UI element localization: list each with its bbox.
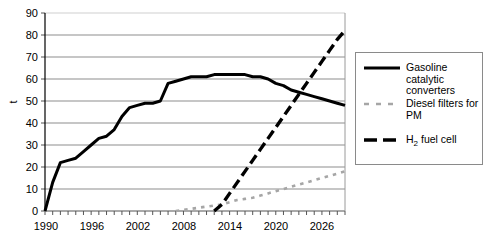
- dashed-line-sample: [362, 133, 402, 147]
- data-series-layer: [45, 31, 345, 211]
- legend-label-diesel-l1: Diesel filters for: [406, 97, 478, 109]
- legend-label-gasoline-l2: catalytic: [406, 73, 444, 85]
- legend-label-diesel-l2: PM: [406, 109, 422, 121]
- legend-item-diesel[interactable]: Diesel filters for PM: [362, 97, 482, 121]
- series-line-1: [176, 171, 345, 211]
- line-chart: t 90 80 70 60 50 40 30 20 10 0 1990 1996…: [0, 0, 488, 239]
- gridlines: [45, 13, 345, 189]
- legend: Gasoline catalytic converters Diesel fil…: [355, 52, 483, 165]
- legend-label-gasoline: Gasoline catalytic converters: [406, 61, 455, 97]
- legend-label-gasoline-l3: converters: [406, 84, 455, 96]
- legend-label-gasoline-l1: Gasoline: [406, 61, 447, 73]
- legend-label-h2-l1: H: [406, 133, 414, 145]
- legend-label-h2: H2 fuel cell: [406, 133, 457, 150]
- legend-item-gasoline[interactable]: Gasoline catalytic converters: [362, 61, 482, 97]
- solid-line-sample: [362, 61, 402, 75]
- dotted-line-sample: [362, 97, 402, 111]
- legend-label-h2-l2: fuel cell: [418, 133, 457, 145]
- legend-item-h2[interactable]: H2 fuel cell: [362, 133, 482, 150]
- legend-label-diesel: Diesel filters for PM: [406, 97, 478, 121]
- x-tick-marks: [45, 211, 345, 215]
- series-line-2: [214, 31, 345, 211]
